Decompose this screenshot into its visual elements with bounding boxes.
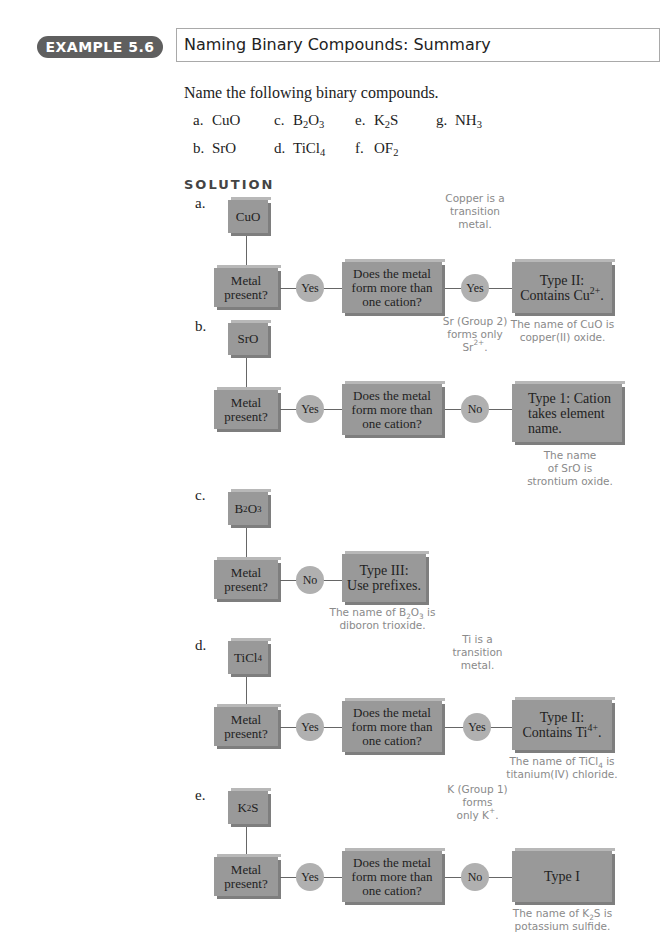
problem-item: b.SrO	[193, 140, 274, 168]
part-label: a.	[195, 195, 205, 212]
cation-question-box: Does the metalform more thanone cation?	[342, 701, 442, 752]
compound-box: CuO	[228, 200, 268, 233]
part-label: e.	[195, 787, 205, 804]
metal-present-box: Metalpresent?	[214, 390, 278, 429]
compound-name-note: The name of TiCl4 istitanium(IV) chlorid…	[502, 755, 622, 781]
compound-name-note: The nameof SrO isstrontium oxide.	[515, 449, 625, 488]
problem-item: g.NH3	[436, 112, 517, 140]
no-circle: No	[461, 863, 489, 891]
cation-question-box: Does the metalform more thanone cation?	[342, 262, 442, 313]
part-label: d.	[195, 637, 206, 654]
example-title: Naming Binary Compounds: Summary	[176, 28, 660, 62]
solution-heading: SOLUTION	[184, 177, 274, 192]
result-box: Type II:Contains Cu2+.	[512, 262, 612, 313]
problem-item: a.CuO	[193, 112, 274, 140]
yes-circle: Yes	[296, 274, 324, 302]
metal-present-box: Metalpresent?	[214, 268, 278, 307]
yes-circle: Yes	[296, 863, 324, 891]
metal-present-box: Metalpresent?	[214, 560, 278, 599]
result-box: Type 1: Cationtakes elementname.	[512, 384, 622, 442]
compound-box: B2O3	[228, 492, 268, 525]
hint-note: K (Group 1)formsonly K+.	[435, 783, 520, 822]
part-label: b.	[195, 318, 206, 335]
problem-item: f.OF2	[355, 140, 436, 168]
result-box: Type II:Contains Ti4+.	[512, 700, 612, 750]
problem-list: a.CuO c.B2O3 e.K2S g.NH3 b.SrO d.TiCl4 f…	[193, 112, 517, 168]
hint-note: Ti is atransitionmetal.	[440, 633, 515, 672]
metal-present-box: Metalpresent?	[214, 857, 278, 896]
part-label: c.	[195, 487, 205, 504]
problem-item: d.TiCl4	[274, 140, 355, 168]
compound-name-note: The name of CuO iscopper(II) oxide.	[505, 318, 620, 344]
hint-note: Copper is atransitionmetal.	[435, 192, 515, 231]
metal-present-box: Metalpresent?	[214, 707, 278, 746]
no-circle: No	[461, 395, 489, 423]
yes-circle: Yes	[296, 713, 324, 741]
hint-note: Sr (Group 2)forms onlySr2+.	[430, 315, 520, 354]
no-circle: No	[296, 566, 324, 594]
problem-item: e.K2S	[355, 112, 436, 140]
compound-name-note: The name of B2O3 isdiboron trioxide.	[320, 606, 445, 632]
problem-prompt: Name the following binary compounds.	[184, 84, 439, 102]
yes-circle: Yes	[461, 274, 489, 302]
yes-circle: Yes	[296, 395, 324, 423]
cation-question-box: Does the metalform more thanone cation?	[342, 384, 442, 435]
result-box: Type III:Use prefixes.	[342, 554, 426, 602]
result-box: Type I	[512, 851, 612, 902]
yes-circle: Yes	[463, 713, 491, 741]
problem-item: c.B2O3	[274, 112, 355, 140]
compound-box: TiCl4	[228, 641, 268, 674]
compound-box: SrO	[228, 323, 268, 355]
cation-question-box: Does the metalform more thanone cation?	[342, 851, 442, 902]
example-badge: EXAMPLE 5.6	[37, 36, 163, 58]
compound-box: K2S	[228, 791, 268, 824]
compound-name-note: The name of K2S ispotassium sulfide.	[505, 907, 620, 933]
